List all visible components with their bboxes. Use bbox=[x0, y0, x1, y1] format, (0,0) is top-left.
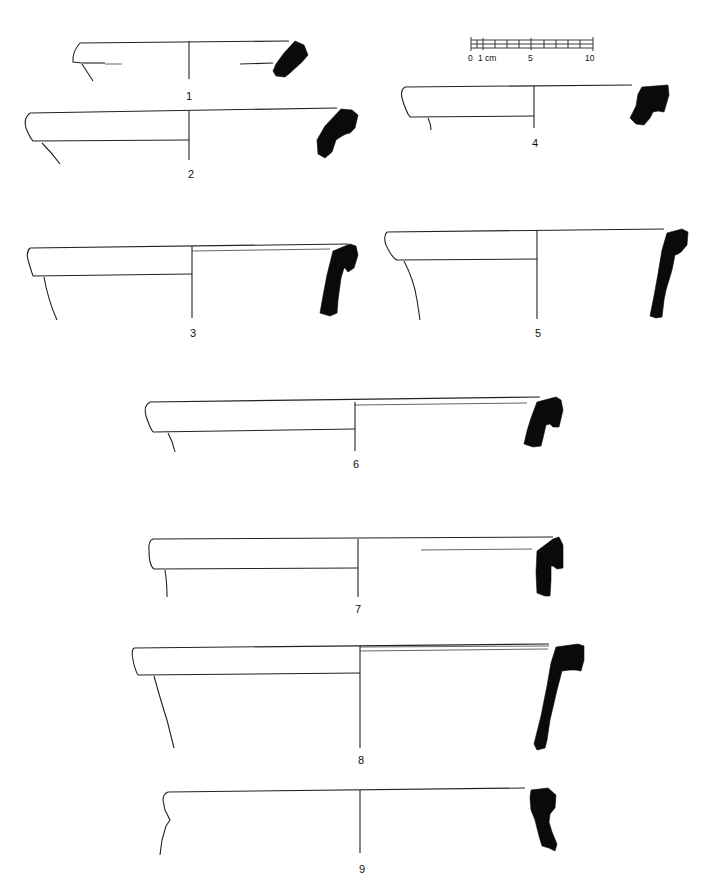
figure-label-7: 7 bbox=[355, 603, 361, 615]
rim-profile-7: 7 bbox=[149, 537, 563, 615]
rim-profile-4: 4 bbox=[401, 85, 669, 149]
rim-profile-9: 9 bbox=[160, 788, 557, 875]
rim-profile-3: 3 bbox=[27, 244, 358, 339]
scale-label-1cm: 1 cm bbox=[478, 53, 496, 63]
figure-label-4: 4 bbox=[532, 137, 538, 149]
rim-section-8 bbox=[534, 644, 584, 750]
figure-label-5: 5 bbox=[535, 327, 541, 339]
rim-section-2 bbox=[317, 109, 358, 158]
figure-label-6: 6 bbox=[353, 458, 359, 470]
rim-section-9 bbox=[530, 788, 557, 851]
rim-section-4 bbox=[630, 85, 669, 125]
figure-label-2: 2 bbox=[188, 168, 194, 180]
figure-label-8: 8 bbox=[358, 754, 364, 766]
rim-profile-5: 5 bbox=[385, 229, 688, 339]
rim-section-7 bbox=[536, 537, 563, 596]
rim-section-3 bbox=[320, 244, 358, 316]
rim-profile-2: 2 bbox=[25, 108, 358, 180]
scale-label-5: 5 bbox=[528, 53, 533, 63]
rim-profile-8: 8 bbox=[132, 644, 584, 766]
rim-profile-6: 6 bbox=[145, 397, 563, 470]
figure-label-1: 1 bbox=[186, 90, 192, 102]
rim-profile-1: 1 bbox=[73, 41, 308, 102]
pottery-plate: 0 1 cm 5 10 1 2 3 bbox=[0, 0, 713, 891]
rim-section-1 bbox=[273, 41, 308, 77]
scale-label-10: 10 bbox=[585, 53, 595, 63]
scale-label-0: 0 bbox=[468, 53, 473, 63]
scale-bar: 0 1 cm 5 10 bbox=[468, 37, 595, 63]
rim-section-6 bbox=[524, 397, 563, 447]
rim-section-5 bbox=[650, 229, 688, 318]
figure-label-3: 3 bbox=[190, 327, 196, 339]
figure-label-9: 9 bbox=[359, 863, 365, 875]
